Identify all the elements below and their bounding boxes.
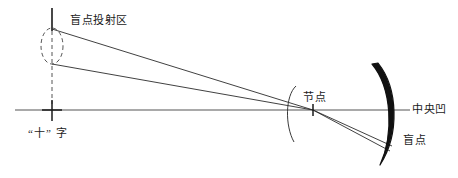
diagram-canvas bbox=[0, 0, 458, 178]
label-nodal-point: 节点 bbox=[303, 92, 326, 103]
label-blind-spot: 盲点 bbox=[403, 135, 426, 146]
thin-cornea-arc bbox=[287, 86, 296, 142]
label-fovea: 中央凹 bbox=[412, 104, 447, 115]
chief-ray-upper bbox=[52, 29, 392, 146]
eye-optics-diagram: 盲点投射区 “十” 字 节点 中央凹 盲点 bbox=[0, 0, 458, 178]
chief-ray-lower bbox=[52, 64, 390, 151]
cross-fixation-mark bbox=[42, 100, 62, 121]
label-cross-character: “十” 字 bbox=[28, 128, 68, 139]
thick-retina-arc bbox=[372, 63, 394, 165]
label-blind-spot-projection-area: 盲点投射区 bbox=[70, 15, 128, 26]
